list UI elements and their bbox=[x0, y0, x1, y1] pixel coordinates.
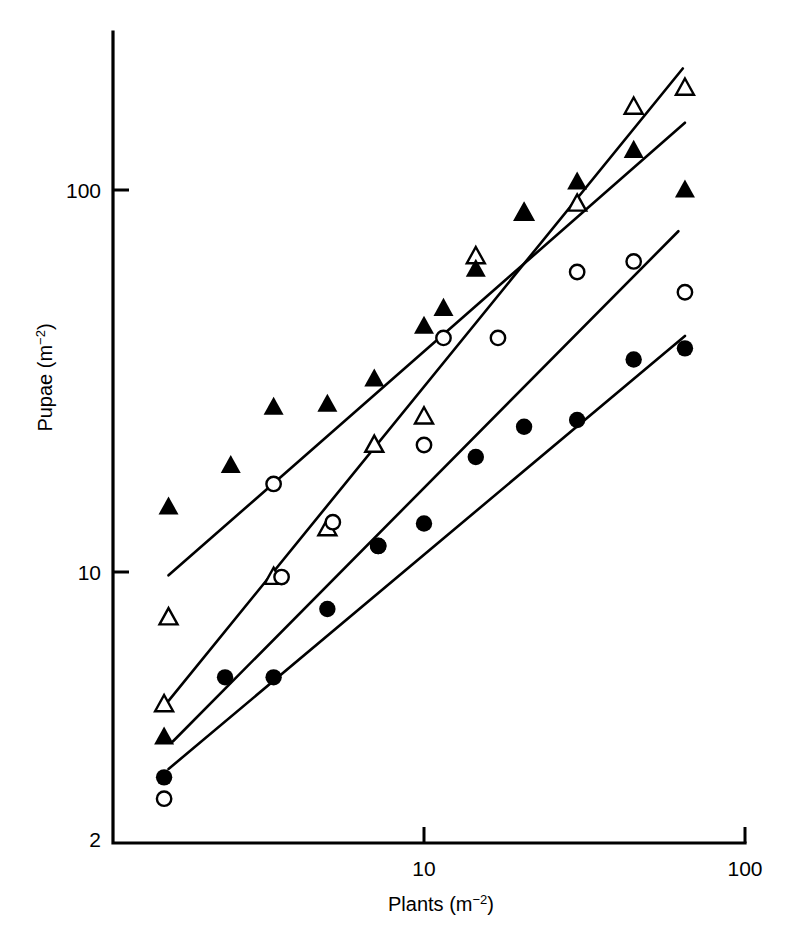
data-point-circle-open bbox=[417, 438, 431, 452]
data-point-triangle-filled bbox=[433, 298, 453, 316]
data-point-triangle-open bbox=[568, 194, 586, 210]
data-point-circle-filled bbox=[416, 515, 432, 531]
data-point-triangle-filled bbox=[159, 496, 179, 514]
data-point-circle-open bbox=[266, 477, 280, 491]
axis-labels: 21010010100Plants (m−2)Pupae (m−2) bbox=[33, 179, 763, 915]
data-point-triangle-filled bbox=[624, 140, 644, 158]
data-point-circle-filled bbox=[217, 669, 233, 685]
data-point-circle-open bbox=[678, 285, 692, 299]
x-axis-title: Plants (m−2) bbox=[388, 892, 494, 915]
data-point-circle-open bbox=[626, 254, 640, 268]
scatter-plot: 21010010100Plants (m−2)Pupae (m−2) bbox=[0, 0, 794, 936]
data-point-triangle-filled bbox=[414, 316, 434, 334]
data-point-triangle-filled bbox=[567, 171, 587, 189]
y-tick-label-2: 2 bbox=[89, 828, 101, 851]
x-tick-label-100: 100 bbox=[727, 857, 762, 880]
data-point-triangle-filled bbox=[221, 455, 241, 473]
fit-line-filled-triangle bbox=[169, 123, 685, 576]
data-point-circle-filled bbox=[319, 601, 335, 617]
data-point-triangle-filled bbox=[264, 397, 284, 415]
data-point-triangle-open bbox=[625, 97, 643, 113]
data-point-circle-filled bbox=[370, 538, 386, 554]
data-point-triangle-filled bbox=[317, 394, 337, 412]
data-point-circle-filled bbox=[516, 419, 532, 435]
data-point-circle-filled bbox=[569, 412, 585, 428]
data-point-circle-filled bbox=[468, 449, 484, 465]
y-tick-label-10: 10 bbox=[78, 561, 101, 584]
data-point-triangle-open bbox=[160, 608, 178, 624]
data-point-circle-filled bbox=[156, 769, 172, 785]
y-tick-label-100: 100 bbox=[66, 179, 101, 202]
data-point-triangle-open bbox=[415, 407, 433, 423]
data-point-triangle-open bbox=[676, 78, 694, 94]
fit-line-open-circle bbox=[173, 231, 679, 741]
figure-container: 21010010100Plants (m−2)Pupae (m−2) bbox=[0, 0, 794, 936]
data-point-circle-open bbox=[326, 515, 340, 529]
data-point-circle-filled bbox=[625, 351, 641, 367]
data-point-triangle-filled bbox=[364, 369, 384, 387]
x-tick-label-10: 10 bbox=[412, 857, 435, 880]
data-point-triangle-filled bbox=[675, 180, 695, 198]
data-point-circle-open bbox=[157, 792, 171, 806]
data-point-triangle-filled bbox=[514, 203, 534, 221]
data-point-circle-open bbox=[274, 570, 288, 584]
y-axis-title: Pupae (m−2) bbox=[33, 323, 56, 431]
fit-line-open-triangle bbox=[169, 68, 683, 700]
data-point-circle-filled bbox=[265, 669, 281, 685]
data-point-triangle-open bbox=[365, 436, 383, 452]
fit-line-filled-circle bbox=[169, 336, 685, 769]
data-point-circle-filled bbox=[677, 340, 693, 356]
data-point-circle-open bbox=[491, 331, 505, 345]
data-point-circle-open bbox=[570, 265, 584, 279]
data-point-circle-open bbox=[436, 331, 450, 345]
data-point-triangle-filled bbox=[154, 726, 174, 744]
data-points bbox=[154, 78, 695, 805]
